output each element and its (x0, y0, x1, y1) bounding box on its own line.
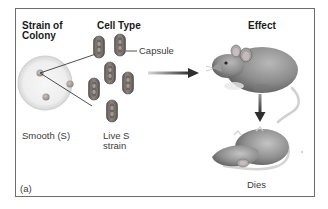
arrow-down-icon (255, 94, 266, 122)
outcome-label: Dies (247, 180, 266, 190)
live-mouse-icon (206, 45, 299, 122)
cell-label: Live S strain (103, 131, 129, 151)
arrow-right-icon (148, 68, 199, 78)
encapsulated-bacteria-icon (89, 34, 134, 122)
strain-name-label: Smooth (S) (22, 131, 70, 141)
diagram-artwork (0, 0, 328, 209)
dead-mouse-icon (212, 127, 303, 169)
capsule-label: Capsule (139, 46, 174, 56)
panel-label: (a) (20, 184, 32, 194)
cell-label-line2: strain (103, 141, 129, 151)
